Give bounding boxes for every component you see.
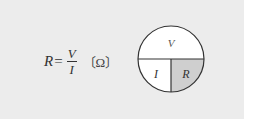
ohms-law-circle-diagram: V I R bbox=[135, 23, 207, 95]
formula-numerator: V bbox=[66, 47, 78, 61]
formula-unit: 〔Ω〕 bbox=[83, 52, 119, 71]
formula-lhs: R bbox=[44, 53, 53, 70]
formula-equals: = bbox=[54, 53, 62, 70]
formula-denominator: I bbox=[69, 62, 73, 76]
background-panel bbox=[0, 0, 244, 119]
formula-fraction: V I bbox=[66, 47, 78, 76]
ohms-law-formula: R = V I 〔Ω〕 bbox=[44, 43, 118, 79]
label-r: R bbox=[181, 67, 190, 81]
